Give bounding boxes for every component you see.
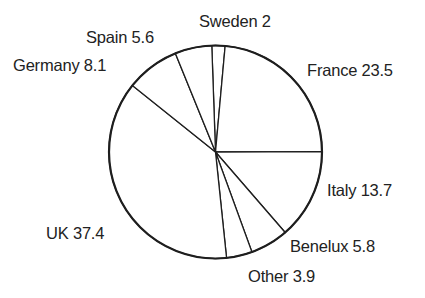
- label-france: France 23.5: [307, 61, 393, 80]
- label-uk: UK 37.4: [46, 224, 104, 243]
- label-other: Other 3.9: [248, 267, 315, 286]
- label-spain: Spain 5.6: [86, 28, 154, 47]
- label-italy: Italy 13.7: [327, 181, 392, 200]
- label-sweden: Sweden 2: [199, 12, 271, 31]
- label-germany: Germany 8.1: [13, 56, 106, 75]
- label-benelux: Benelux 5.8: [290, 237, 375, 256]
